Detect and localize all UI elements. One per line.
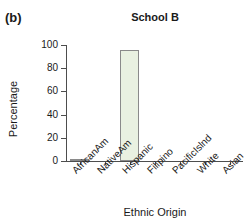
x-axis-title: Ethnic Origin [67, 206, 243, 218]
y-tick-mark [61, 115, 66, 116]
figure-panel: (b) School B Percentage 020406080100 Afr… [0, 0, 249, 223]
y-tick-mark [61, 161, 66, 162]
y-tick-label: 100 [18, 40, 58, 50]
y-tick-label: 80 [18, 63, 58, 73]
y-tick-label: 0 [18, 156, 58, 166]
y-tick-label: 20 [18, 133, 58, 143]
y-tick-mark [61, 68, 66, 69]
y-tick-label: 40 [18, 110, 58, 120]
y-tick-label: 60 [18, 86, 58, 96]
y-tick-mark [61, 138, 66, 139]
chart-title: School B [67, 11, 243, 23]
y-tick-mark [61, 45, 66, 46]
y-tick-mark [61, 91, 66, 92]
panel-label: (b) [5, 10, 22, 25]
